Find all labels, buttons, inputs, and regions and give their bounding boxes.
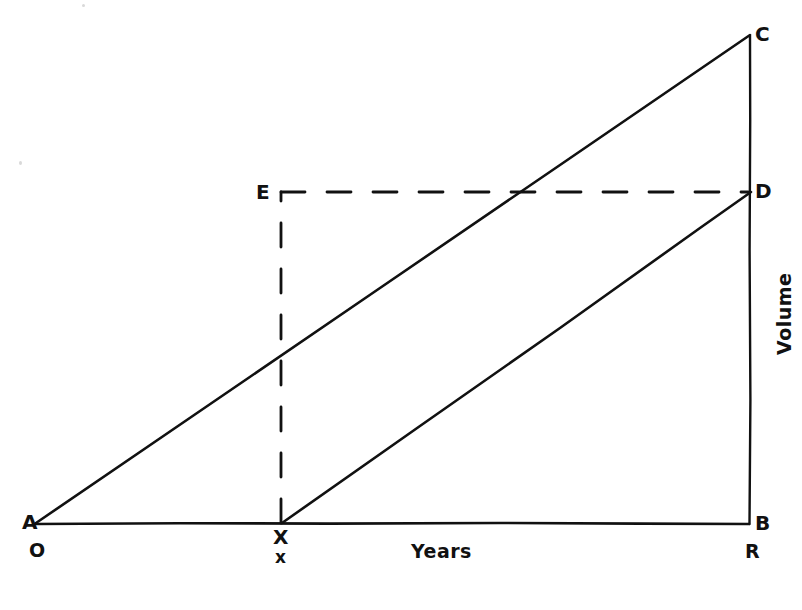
point-label-c: C: [755, 24, 770, 44]
point-label-a: A: [22, 512, 38, 532]
line-bc: [750, 36, 751, 524]
diagram-lines: [0, 0, 802, 610]
point-label-x: X: [273, 527, 289, 547]
line-xd: [282, 192, 751, 523]
x-axis-title: Years: [411, 542, 472, 561]
point-label-b: B: [755, 513, 771, 533]
x-end-label: R: [745, 542, 760, 561]
scan-artifact: [82, 4, 85, 7]
diagram-canvas: A B C D E X O x Years R Volume: [0, 0, 802, 610]
y-axis-title: Volume: [775, 273, 794, 355]
scan-artifact: [19, 161, 22, 165]
line-ac: [36, 35, 750, 523]
point-label-e: E: [256, 182, 270, 202]
x-tick-label: x: [275, 549, 286, 566]
line-ab: [35, 523, 749, 524]
point-label-d: D: [755, 181, 772, 201]
origin-label: O: [29, 541, 46, 560]
